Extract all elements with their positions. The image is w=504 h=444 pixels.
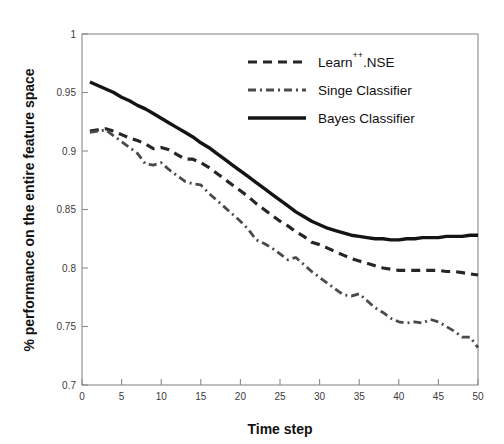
- series-path-bayes-classifier: [90, 82, 478, 240]
- y-tick-label: 0.7: [62, 380, 76, 391]
- y-tick-label: 1: [70, 29, 76, 40]
- y-axis-ticks: 0.70.750.80.850.90.951: [57, 29, 88, 391]
- x-tick-label: 20: [235, 391, 247, 402]
- x-tick-label: 25: [274, 391, 286, 402]
- x-axis-title: Time step: [247, 421, 312, 437]
- chart-figure: 0.70.750.80.850.90.951 05101520253035404…: [0, 0, 504, 444]
- plot-border: [82, 34, 478, 385]
- x-tick-label: 0: [79, 391, 85, 402]
- data-series-group: [90, 82, 478, 348]
- x-axis-ticks: 05101520253035404550: [79, 379, 484, 402]
- x-tick-label: 45: [433, 391, 445, 402]
- y-tick-label: 0.8: [62, 263, 76, 274]
- legend-label-2: Singe Classifier: [318, 83, 412, 98]
- x-tick-label: 10: [156, 391, 168, 402]
- legend-label-1: Learn++.NSE: [318, 50, 395, 70]
- plot-frame: [82, 34, 478, 385]
- x-tick-label: 35: [354, 391, 366, 402]
- y-axis-title: % performance on the entire feature spac…: [21, 68, 37, 351]
- x-tick-label: 15: [195, 391, 207, 402]
- x-tick-label: 50: [472, 391, 484, 402]
- chart-legend: Learn++.NSESinge ClassifierBayes Classif…: [248, 50, 415, 126]
- y-tick-label: 0.75: [57, 321, 77, 332]
- x-tick-label: 30: [314, 391, 326, 402]
- line-chart: 0.70.750.80.850.90.951 05101520253035404…: [0, 0, 504, 444]
- x-tick-label: 5: [119, 391, 125, 402]
- x-tick-label: 40: [393, 391, 405, 402]
- y-tick-label: 0.85: [57, 204, 77, 215]
- y-tick-label: 0.95: [57, 87, 77, 98]
- legend-label-3: Bayes Classifier: [318, 111, 415, 126]
- y-tick-label: 0.9: [62, 146, 76, 157]
